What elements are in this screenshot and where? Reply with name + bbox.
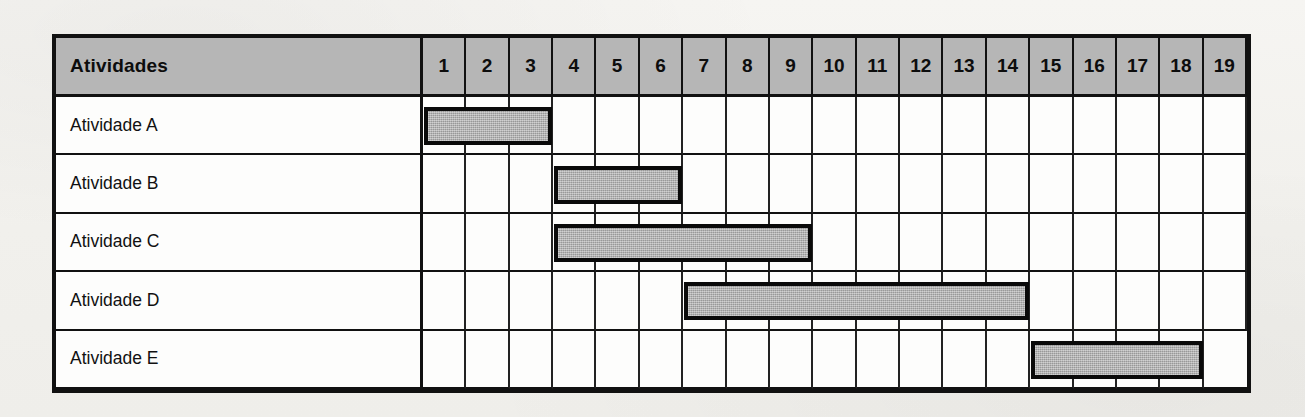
row-label-atividade-d: Atividade D	[56, 272, 423, 330]
cell-b-18	[1160, 155, 1203, 213]
row-label-atividade-e: Atividade E	[56, 331, 423, 389]
cell-a-13	[943, 97, 986, 155]
cell-d-12	[900, 272, 943, 330]
row-label-atividade-b: Atividade B	[56, 155, 423, 213]
cell-d-5	[596, 272, 639, 330]
cell-a-3	[510, 97, 553, 155]
cell-a-18	[1160, 97, 1203, 155]
cell-c-6	[640, 214, 683, 272]
header-activities-label: Atividades	[56, 38, 423, 97]
cell-a-17	[1117, 97, 1160, 155]
cell-b-11	[857, 155, 900, 213]
header-unit-6: 6	[640, 38, 683, 97]
cell-d-9	[770, 272, 813, 330]
cell-d-15	[1030, 272, 1073, 330]
header-unit-7: 7	[683, 38, 726, 97]
cell-c-2	[466, 214, 509, 272]
header-unit-13: 13	[943, 38, 986, 97]
cell-e-11	[857, 331, 900, 389]
cell-d-16	[1074, 272, 1117, 330]
cell-e-12	[900, 331, 943, 389]
cell-d-14	[987, 272, 1030, 330]
cell-c-8	[727, 214, 770, 272]
cell-b-1	[423, 155, 466, 213]
header-unit-11: 11	[857, 38, 900, 97]
cell-d-8	[727, 272, 770, 330]
cell-e-10	[813, 331, 856, 389]
cell-d-7	[683, 272, 726, 330]
header-unit-15: 15	[1030, 38, 1073, 97]
cell-c-19	[1204, 214, 1247, 272]
header-unit-19: 19	[1204, 38, 1247, 97]
cell-b-3	[510, 155, 553, 213]
cell-b-13	[943, 155, 986, 213]
cell-a-2	[466, 97, 509, 155]
cell-e-16	[1074, 331, 1117, 389]
cell-b-10	[813, 155, 856, 213]
row-label-atividade-a: Atividade A	[56, 97, 423, 155]
header-unit-5: 5	[596, 38, 639, 97]
cell-d-6	[640, 272, 683, 330]
cell-d-18	[1160, 272, 1203, 330]
cell-b-15	[1030, 155, 1073, 213]
cell-a-19	[1204, 97, 1247, 155]
cell-a-8	[727, 97, 770, 155]
cell-b-6	[640, 155, 683, 213]
cell-c-16	[1074, 214, 1117, 272]
cell-a-5	[596, 97, 639, 155]
cell-b-12	[900, 155, 943, 213]
cell-b-7	[683, 155, 726, 213]
cell-b-17	[1117, 155, 1160, 213]
cell-c-7	[683, 214, 726, 272]
cell-d-4	[553, 272, 596, 330]
cell-e-8	[727, 331, 770, 389]
cell-e-4	[553, 331, 596, 389]
cell-b-4	[553, 155, 596, 213]
cell-d-19	[1204, 272, 1247, 330]
cell-b-14	[987, 155, 1030, 213]
cell-a-15	[1030, 97, 1073, 155]
cell-a-7	[683, 97, 726, 155]
header-unit-2: 2	[466, 38, 509, 97]
cell-c-10	[813, 214, 856, 272]
cell-e-5	[596, 331, 639, 389]
cell-b-2	[466, 155, 509, 213]
cell-c-18	[1160, 214, 1203, 272]
cell-d-3	[510, 272, 553, 330]
cell-e-1	[423, 331, 466, 389]
gantt-grid: Atividades 1 2 3 4 5 6 7 8 9 10 11 12 13…	[56, 38, 1247, 389]
cell-c-1	[423, 214, 466, 272]
cell-d-1	[423, 272, 466, 330]
cell-e-9	[770, 331, 813, 389]
cell-c-13	[943, 214, 986, 272]
cell-e-15	[1030, 331, 1073, 389]
cell-b-9	[770, 155, 813, 213]
cell-b-19	[1204, 155, 1247, 213]
header-unit-4: 4	[553, 38, 596, 97]
header-unit-16: 16	[1074, 38, 1117, 97]
cell-a-1	[423, 97, 466, 155]
header-unit-14: 14	[987, 38, 1030, 97]
cell-a-10	[813, 97, 856, 155]
cell-b-8	[727, 155, 770, 213]
cell-c-14	[987, 214, 1030, 272]
cell-b-5	[596, 155, 639, 213]
header-unit-10: 10	[813, 38, 856, 97]
cell-a-14	[987, 97, 1030, 155]
cell-e-2	[466, 331, 509, 389]
cell-d-10	[813, 272, 856, 330]
cell-d-17	[1117, 272, 1160, 330]
cell-a-16	[1074, 97, 1117, 155]
cell-e-14	[987, 331, 1030, 389]
cell-c-15	[1030, 214, 1073, 272]
cell-e-17	[1117, 331, 1160, 389]
row-label-atividade-c: Atividade C	[56, 214, 423, 272]
cell-c-4	[553, 214, 596, 272]
cell-a-12	[900, 97, 943, 155]
header-unit-1: 1	[423, 38, 466, 97]
cell-e-19	[1204, 331, 1247, 389]
cell-e-13	[943, 331, 986, 389]
header-unit-3: 3	[510, 38, 553, 97]
cell-c-11	[857, 214, 900, 272]
cell-a-6	[640, 97, 683, 155]
